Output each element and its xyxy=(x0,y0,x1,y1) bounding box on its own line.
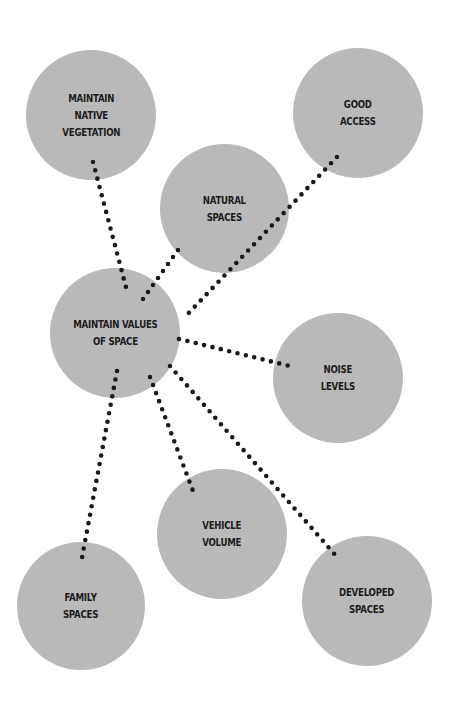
connector-vehicle xyxy=(150,377,193,491)
connector-access xyxy=(184,157,337,318)
connector-noise xyxy=(179,339,294,367)
connector-layer xyxy=(0,0,452,704)
concept-map-diagram: MAINTAIN NATIVE VEGETATION GOOD ACCESS N… xyxy=(0,0,452,704)
connector-natural xyxy=(143,250,178,299)
connector-vegetation xyxy=(93,162,127,291)
connector-developed xyxy=(170,366,337,557)
connector-family xyxy=(81,371,117,563)
